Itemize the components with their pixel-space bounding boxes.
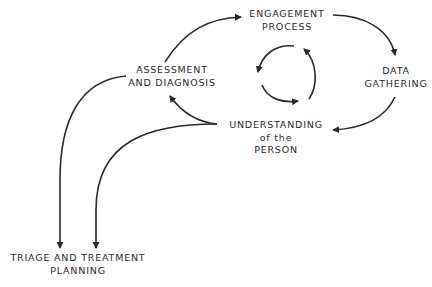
node-label: AND DIAGNOSIS <box>126 77 218 90</box>
arrow-engagement-to-data <box>333 15 395 55</box>
diagram-connectors <box>0 0 432 287</box>
node-triage-and-treatment-planning: TRIAGE AND TREATMENT PLANNING <box>4 252 152 277</box>
node-label: PROCESS <box>241 21 333 34</box>
cycle-arrows-icon <box>258 46 315 102</box>
arrow-understanding-to-assessment <box>170 96 217 124</box>
arrow-data-to-understanding <box>333 97 395 130</box>
node-label: PERSON <box>220 144 332 157</box>
node-label: ASSESSMENT <box>126 64 218 77</box>
node-label: PLANNING <box>4 265 152 278</box>
node-assessment-and-diagnosis: ASSESSMENT AND DIAGNOSIS <box>126 64 218 89</box>
node-understanding-of-the-person: UNDERSTANDING of the PERSON <box>220 119 332 157</box>
arrow-assessment-to-engagement <box>165 17 241 62</box>
node-label: ENGAGEMENT <box>241 8 333 21</box>
node-label: UNDERSTANDING <box>220 119 332 132</box>
node-data-gathering: DATA GATHERING <box>362 65 430 90</box>
arrow-understanding-to-triage <box>96 124 217 248</box>
arrow-assessment-to-triage <box>60 76 126 248</box>
node-label: of the <box>220 132 332 145</box>
node-engagement-process: ENGAGEMENT PROCESS <box>241 8 333 33</box>
node-label: TRIAGE AND TREATMENT <box>4 252 152 265</box>
node-label: GATHERING <box>362 78 430 91</box>
node-label: DATA <box>362 65 430 78</box>
